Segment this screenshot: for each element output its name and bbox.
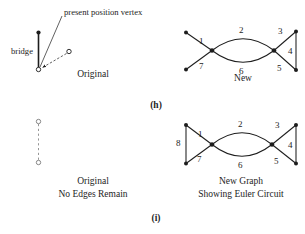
panel-i-left-caption-line1: Original [77, 177, 109, 187]
panel-i-left-caption-line2: No Edges Remain [58, 190, 127, 200]
edge-label-i-4: 4 [288, 141, 293, 150]
vertex-i-d [270, 142, 275, 147]
vertex-i-f [294, 162, 298, 166]
leader-line-present-position [40, 16, 62, 67]
panel-h-left-caption: Original [77, 70, 109, 80]
vertex-h-d [272, 48, 277, 53]
vertex-h-f [294, 68, 298, 72]
edge-label-2: 2 [239, 26, 244, 35]
edge-label-3: 3 [278, 27, 283, 36]
vertex-i-b [184, 162, 188, 166]
figure-canvas: present position vertex bridge Original … [0, 0, 305, 234]
panel-i-left-graph [36, 119, 40, 164]
edge-label-i-7: 7 [197, 155, 202, 164]
edge-label-4: 4 [288, 47, 293, 56]
vertex-h-a [184, 31, 188, 35]
edge-2-arc [212, 39, 274, 51]
panel-h-left-graph [36, 16, 71, 72]
panel-h-tag: (h) [150, 101, 162, 111]
vertex-h-e [294, 30, 298, 34]
vertex-h-c [210, 48, 215, 53]
edge-label-5: 5 [277, 64, 282, 73]
edge-label-i-6: 6 [238, 161, 243, 170]
edge-label-i-8: 8 [176, 139, 181, 148]
edge-label-1: 1 [199, 37, 204, 46]
edge-i-2-arc [212, 133, 272, 145]
edge-label-i-2: 2 [238, 120, 243, 129]
present-position-vertex-label: present position vertex [64, 8, 142, 17]
panel-i-right-caption-line1: New Graph [219, 177, 263, 187]
bridge-label: bridge [11, 47, 33, 56]
vertex-present-position [36, 67, 40, 71]
vertex-i-top-open [36, 119, 40, 123]
edge-label-i-3: 3 [275, 121, 280, 130]
edge-label-7: 7 [199, 62, 204, 71]
dashed-arrow-to-present-position [43, 54, 67, 68]
panel-i-right-caption-line2: Showing Euler Circuit [198, 190, 284, 200]
vertex-i-a [184, 123, 188, 127]
vertex-i-c [210, 142, 215, 147]
vertex-isolated-open [67, 49, 71, 53]
edge-6-arc [212, 51, 274, 63]
vertex-h-b [184, 68, 188, 72]
vertex-i-e [294, 123, 298, 127]
panel-i-tag: (i) [152, 214, 161, 224]
panel-h-right-caption: New [234, 74, 252, 84]
edge-label-i-1: 1 [198, 130, 203, 139]
vertex-top-filled [36, 30, 40, 34]
edge-label-i-5: 5 [274, 157, 279, 166]
vertex-i-bottom-open [36, 160, 40, 164]
edge-i-6-arc [212, 145, 272, 157]
